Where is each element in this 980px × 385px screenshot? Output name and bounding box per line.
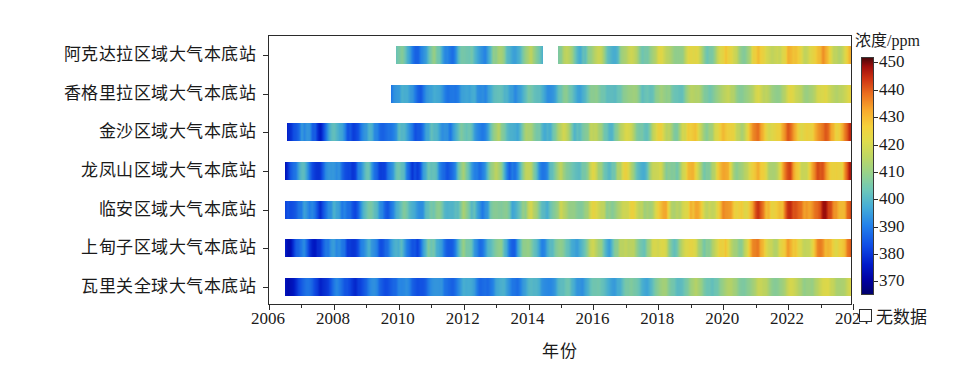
colorbar-label-410: 410 <box>879 162 905 182</box>
heatmap-segment <box>287 123 851 141</box>
x-axis-title: 年份 <box>268 337 852 362</box>
y-axis-tick <box>263 210 269 211</box>
x-axis-label-2020: 2020 <box>705 310 739 329</box>
x-axis-label-2018: 2018 <box>640 310 674 329</box>
colorbar-label-390: 390 <box>879 217 905 237</box>
x-axis-minor-tick <box>626 304 627 308</box>
heatmap-segment <box>285 239 851 257</box>
heatmap-row <box>269 201 851 219</box>
colorbar-label-380: 380 <box>879 244 905 264</box>
colorbar-tick <box>874 117 878 118</box>
heatmap-segment <box>391 85 851 103</box>
colorbar-gradient <box>861 57 874 295</box>
colorbar-tick <box>874 199 878 200</box>
no-data-swatch <box>859 309 872 322</box>
heatmap-row <box>269 123 851 141</box>
heatmap-row <box>269 46 851 64</box>
x-axis-minor-tick <box>496 304 497 308</box>
heatmap-row <box>269 278 851 296</box>
x-axis-minor-tick <box>301 304 302 308</box>
colorbar-tick <box>874 62 878 63</box>
heatmap-row <box>269 85 851 103</box>
plot-area <box>268 35 852 305</box>
y-axis-tick <box>263 132 269 133</box>
colorbar-label-370: 370 <box>879 271 905 291</box>
y-axis-label-station-7: 瓦里关全球大气本底站 <box>81 277 256 294</box>
y-axis-label-station-6: 上甸子区域大气本底站 <box>81 239 256 256</box>
colorbar-label-400: 400 <box>879 189 905 209</box>
colorbar-tick <box>874 227 878 228</box>
colorbar-label-450: 450 <box>879 52 905 72</box>
colorbar-tick <box>874 254 878 255</box>
heatmap-segment <box>285 162 851 180</box>
y-axis-tick <box>263 248 269 249</box>
colorbar-tick <box>874 172 878 173</box>
colorbar-tick <box>874 90 878 91</box>
heatmap-segment <box>396 46 544 64</box>
x-axis-minor-tick <box>756 304 757 308</box>
heatmap-segment <box>285 201 851 219</box>
x-axis-minor-tick <box>561 304 562 308</box>
colorbar-tick <box>874 145 878 146</box>
colorbar-label-420: 420 <box>879 135 905 155</box>
colorbar-label-440: 440 <box>879 80 905 100</box>
x-axis-label-2022: 2022 <box>770 310 804 329</box>
y-axis-labels: 阿克达拉区域大气本底站香格里拉区域大气本底站金沙区域大气本底站龙凤山区域大气本底… <box>0 35 256 305</box>
x-axis-minor-tick <box>821 304 822 308</box>
y-axis-label-station-1: 阿克达拉区域大气本底站 <box>64 46 257 63</box>
y-axis-tick <box>263 94 269 95</box>
y-axis-label-station-2: 香格里拉区域大气本底站 <box>64 84 257 101</box>
x-axis-label-2008: 2008 <box>316 310 350 329</box>
x-axis-minor-tick <box>691 304 692 308</box>
colorbar-label-430: 430 <box>879 107 905 127</box>
x-axis-label-2014: 2014 <box>511 310 545 329</box>
no-data-legend: 无数据 <box>859 303 927 328</box>
x-axis-minor-tick <box>366 304 367 308</box>
y-axis-tick <box>263 171 269 172</box>
y-axis-label-station-4: 龙凤山区域大气本底站 <box>81 162 256 179</box>
heatmap-segment <box>558 46 851 64</box>
y-axis-tick <box>263 287 269 288</box>
colorbar-tick <box>874 281 878 282</box>
y-axis-label-station-5: 临安区域大气本底站 <box>99 200 257 217</box>
x-axis-label-2010: 2010 <box>381 310 415 329</box>
y-axis-tick <box>263 55 269 56</box>
x-axis-minor-tick <box>431 304 432 308</box>
heatmap-rows-container <box>269 36 851 304</box>
heatmap-segment <box>285 278 851 296</box>
colorbar-title: 浓度/ppm <box>855 27 920 51</box>
heatmap-row <box>269 162 851 180</box>
heatmap-row <box>269 239 851 257</box>
y-axis-label-station-3: 金沙区域大气本底站 <box>99 123 257 140</box>
colorbar: 370380390400410420430440450 <box>861 57 874 295</box>
co2-concentration-heatmap: 阿克达拉区域大气本底站香格里拉区域大气本底站金沙区域大气本底站龙凤山区域大气本底… <box>0 0 980 385</box>
no-data-label: 无数据 <box>876 303 927 328</box>
x-axis-label-2016: 2016 <box>575 310 609 329</box>
x-axis-labels: 2006200820102012201420162018202020222024 <box>268 310 852 336</box>
x-axis-label-2006: 2006 <box>251 310 285 329</box>
x-axis-label-2012: 2012 <box>446 310 480 329</box>
